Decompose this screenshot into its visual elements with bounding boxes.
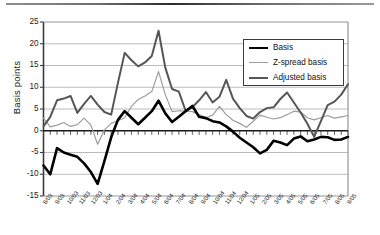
- legend-swatch-zspread-icon: [249, 62, 268, 63]
- y-tick-label: -15: [17, 191, 39, 200]
- legend-swatch-adjusted-icon: [249, 77, 268, 79]
- legend-swatch-basis-icon: [249, 47, 268, 49]
- chart-legend: Basis Z-spread basis Adjusted basis: [243, 39, 344, 86]
- legend-item-basis: Basis: [244, 40, 343, 55]
- y-tick-label: 15: [17, 60, 39, 69]
- legend-item-zspread: Z-spread basis: [244, 55, 343, 70]
- y-tick-label: 10: [17, 82, 39, 91]
- y-tick-label: 0: [17, 126, 39, 135]
- y-tick-label: 20: [17, 39, 39, 48]
- legend-label-zspread: Z-spread basis: [273, 58, 327, 67]
- y-tick-label: -10: [17, 169, 39, 178]
- y-tick-label: -5: [17, 147, 39, 156]
- legend-label-basis: Basis: [273, 43, 293, 52]
- y-tick-label: 25: [17, 17, 39, 26]
- legend-item-adjusted: Adjusted basis: [244, 70, 343, 85]
- y-tick-label: 5: [17, 104, 39, 113]
- legend-label-adjusted: Adjusted basis: [273, 73, 326, 82]
- chart-figure: Basis points Yield source: Bloomberg. Ca…: [0, 0, 380, 235]
